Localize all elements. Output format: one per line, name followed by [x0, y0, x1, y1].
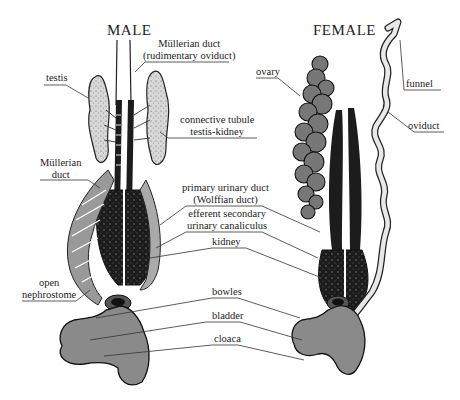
- testis-left: [89, 76, 110, 163]
- testis-right: [147, 71, 169, 164]
- label-efferent-canaliculus: efferent secondary urinary canaliculus: [187, 208, 267, 232]
- label-mullerian-rudimentary: Müllerian duct (rudimentary oviduct): [143, 38, 235, 62]
- title-male: MALE: [107, 22, 152, 39]
- label-oviduct: oviduct: [408, 120, 440, 132]
- label-mullerian-duct: Müllerian duct: [40, 157, 81, 181]
- ovary-cluster: [293, 56, 334, 219]
- label-open-nephrostome: open nephrostome: [22, 277, 76, 301]
- label-connective-tubule: connective tubule testis-kidney: [180, 114, 254, 138]
- title-female: FEMALE: [313, 22, 376, 39]
- label-primary-urinary-duct: primary urinary duct (Wolffian duct): [182, 182, 269, 206]
- label-bowles: bowles: [212, 286, 242, 298]
- male-figure: [60, 40, 168, 385]
- label-funnel: funnel: [406, 78, 433, 90]
- label-kidney: kidney: [212, 236, 241, 248]
- label-testis: testis: [46, 72, 68, 84]
- female-bladder-cloaca: [292, 306, 365, 375]
- female-figure: [292, 22, 398, 374]
- label-bladder: bladder: [212, 310, 244, 322]
- male-bladder-cloaca: [60, 306, 149, 385]
- label-ovary: ovary: [256, 66, 280, 78]
- label-cloaca: cloaca: [214, 333, 241, 345]
